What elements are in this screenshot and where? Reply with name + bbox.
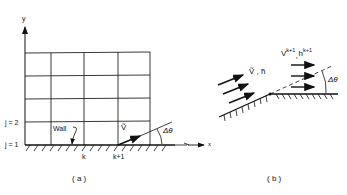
caption-b: ( b ) <box>267 174 282 183</box>
column-label-k: k <box>82 153 86 160</box>
caption-a: ( a ) <box>72 174 87 183</box>
upstream-flow-arrows <box>218 75 254 103</box>
velocity-arrow <box>118 136 140 145</box>
row-label-j2: j = 2 <box>4 119 19 127</box>
angle-arc-b <box>322 71 326 93</box>
angle-label-a: Δθ <box>162 126 173 135</box>
figure-b: Ṽ , h̃ Vk+1,hk+1 Δθ ( b ) <box>218 47 338 183</box>
upstream-label: Ṽ , h̃ <box>249 67 265 76</box>
velocity-label: Ṽ <box>121 123 127 132</box>
diagram-canvas: y x j = 2 <box>0 0 347 195</box>
wall-hatching <box>26 145 166 151</box>
x-axis-label: x <box>208 141 211 147</box>
column-label-k-plus-1: k+1 <box>113 153 125 160</box>
downstream-label: Vk+1,hk+1 <box>281 47 312 60</box>
wall-pointer <box>72 127 77 144</box>
dashed-extension <box>270 66 332 94</box>
downstream-flow-arrows <box>291 65 314 87</box>
computational-grid <box>25 52 150 145</box>
horizontal-wall-hatching <box>276 94 333 99</box>
row-label-j1: j = 1 <box>4 141 19 149</box>
inclined-wall-hatching <box>224 96 267 121</box>
angle-label-b: Δθ <box>327 75 338 84</box>
figure-a: y x j = 2 <box>4 15 211 183</box>
wall-label: Wall <box>53 125 67 132</box>
angle-arc <box>157 129 162 144</box>
y-axis-label: y <box>22 15 26 23</box>
